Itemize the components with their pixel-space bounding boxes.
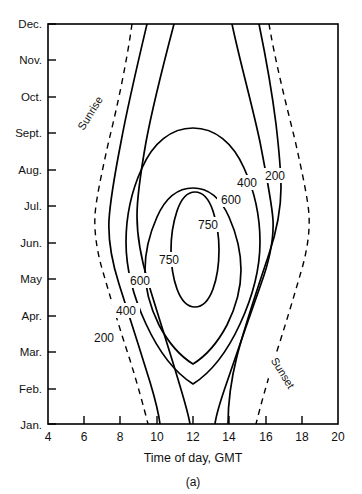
y-tick-label-sept: Sept. bbox=[15, 127, 42, 139]
y-axis-ticks bbox=[48, 24, 56, 424]
contour-label-750-right: 750 bbox=[198, 218, 218, 232]
contour-plot: Dec. Nov. Oct. Sept. Aug. Jul. Jun. May … bbox=[0, 0, 362, 494]
x-tick-label-6: 6 bbox=[81, 430, 88, 444]
x-tick-label-8: 8 bbox=[117, 430, 124, 444]
figure-panel-a: Dec. Nov. Oct. Sept. Aug. Jul. Jun. May … bbox=[0, 0, 362, 494]
x-axis-labels: 4 6 8 10 12 14 16 18 20 bbox=[45, 430, 345, 444]
x-tick-label-18: 18 bbox=[295, 430, 309, 444]
contour-label-200-left: 200 bbox=[94, 331, 114, 345]
y-tick-label-dec: Dec. bbox=[18, 18, 42, 30]
x-tick-label-12: 12 bbox=[186, 430, 200, 444]
y-tick-label-may: May bbox=[20, 273, 42, 285]
x-tick-label-10: 10 bbox=[150, 430, 164, 444]
y-tick-label-nov: Nov. bbox=[19, 54, 42, 66]
sunrise-curve bbox=[95, 24, 148, 424]
x-axis-ticks bbox=[84, 416, 302, 424]
y-tick-label-feb: Feb. bbox=[19, 383, 42, 395]
x-tick-label-4: 4 bbox=[45, 430, 52, 444]
y-tick-label-jul: Jul. bbox=[24, 200, 42, 212]
x-axis-title: Time of day, GMT bbox=[144, 451, 243, 465]
sunrise-annotation: Sunrise bbox=[64, 85, 116, 140]
contour-label-750-left: 750 bbox=[159, 253, 179, 267]
y-tick-label-jan: Jan. bbox=[20, 419, 42, 431]
contour-label-400-right: 400 bbox=[237, 176, 257, 190]
contour-label-400-left: 400 bbox=[116, 304, 136, 318]
contour-200-left bbox=[109, 24, 160, 424]
sunset-annotation: Sunset bbox=[260, 348, 307, 398]
y-axis-labels: Dec. Nov. Oct. Sept. Aug. Jul. Jun. May … bbox=[15, 18, 42, 431]
plot-content: 200 400 600 750 750 600 400 200 bbox=[64, 24, 309, 424]
y-tick-label-mar: Mar. bbox=[20, 346, 42, 358]
y-tick-label-oct: Oct. bbox=[21, 91, 42, 103]
y-tick-label-jun: Jun. bbox=[20, 237, 42, 249]
panel-label: (a) bbox=[186, 475, 201, 489]
contour-750-outer bbox=[145, 188, 241, 364]
contour-label-200-right: 200 bbox=[265, 169, 285, 183]
y-tick-label-aug: Aug. bbox=[18, 164, 42, 176]
x-tick-label-16: 16 bbox=[259, 430, 273, 444]
y-tick-label-apr: Apr. bbox=[22, 310, 42, 322]
contour-750-inner bbox=[171, 192, 219, 307]
contour-label-600-left: 600 bbox=[130, 274, 150, 288]
x-tick-label-20: 20 bbox=[331, 430, 345, 444]
contour-label-600-right: 600 bbox=[221, 193, 241, 207]
x-tick-label-14: 14 bbox=[222, 430, 236, 444]
